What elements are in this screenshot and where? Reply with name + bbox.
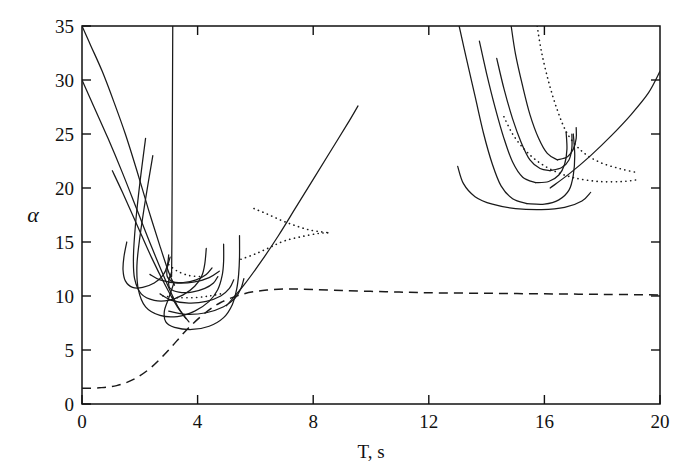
curve-rising-branch-mid [227, 106, 359, 306]
curve-hairpin-3-right [550, 134, 572, 171]
figure-container: 0 5 10 15 20 25 30 35 0 4 8 12 16 20 T, … [0, 0, 678, 468]
y-tick-label: 20 [55, 178, 74, 199]
curve-hairpin-3-left [497, 58, 550, 170]
x-tick-label: 8 [308, 411, 318, 432]
y-tick-label: 35 [55, 16, 74, 37]
curve-hairpin-4-left [511, 26, 557, 160]
curve-hairpin-2-left [479, 41, 535, 182]
x-tick-label: 16 [535, 411, 554, 432]
curve-dashed-sigmoid [82, 289, 660, 388]
y-axis-label: α [27, 202, 39, 227]
y-tick-label: 30 [55, 70, 74, 91]
data-curves [82, 26, 660, 388]
y-tick-label: 5 [65, 340, 75, 361]
y-axis-ticks [82, 26, 660, 404]
curve-dotted-short-left [169, 265, 201, 277]
chart-canvas: 0 5 10 15 20 25 30 35 0 4 8 12 16 20 T, … [0, 0, 678, 468]
curve-vertical-spike [172, 26, 173, 277]
y-tick-label: 0 [65, 394, 75, 415]
y-tick-label: 10 [55, 286, 74, 307]
y-tick-label: 15 [55, 232, 74, 253]
x-axis-label: T, s [357, 441, 384, 462]
x-tick-label: 4 [193, 411, 203, 432]
curve-descending-branch-1 [82, 26, 174, 285]
x-tick-label: 0 [77, 411, 87, 432]
curve-dotted-fishtail-lower [241, 233, 331, 259]
x-tick-labels: 0 4 8 12 16 20 [77, 411, 669, 432]
x-tick-label: 12 [419, 411, 438, 432]
plot-frame [82, 26, 660, 404]
x-axis-ticks [82, 26, 660, 404]
curve-dotted-right-descending [537, 26, 638, 173]
y-tick-labels: 0 5 10 15 20 25 30 35 [55, 16, 74, 415]
y-tick-label: 25 [55, 124, 74, 145]
curve-hairpin-1-left [459, 26, 527, 204]
curve-rising-branch-right [550, 71, 660, 188]
curve-loop-small-left [123, 242, 169, 288]
x-tick-label: 20 [651, 411, 670, 432]
curve-tail-lower-c [150, 271, 219, 283]
